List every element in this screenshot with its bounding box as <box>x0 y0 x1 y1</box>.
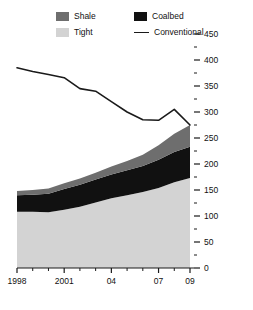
x-tick-label: 2001 <box>55 276 74 286</box>
y-tick-label: 400 <box>204 55 218 65</box>
y-tick-label: 150 <box>204 185 218 195</box>
line-conventional <box>17 68 190 125</box>
x-tick-label: 09 <box>185 276 195 286</box>
y-tick-label: 100 <box>204 211 218 221</box>
x-tick-label: 07 <box>154 276 164 286</box>
y-tick-label: 200 <box>204 159 218 169</box>
chart-container: Shale Tight Coalbed Conventional 0501001… <box>0 0 253 310</box>
chart-svg: 050100150200250300350400450 199820010407… <box>0 0 253 310</box>
y-tick-label: 0 <box>204 263 209 273</box>
y-tick-label: 250 <box>204 133 218 143</box>
y-tick-label: 50 <box>204 237 214 247</box>
y-tick-label: 300 <box>204 107 218 117</box>
y-tick-label: 350 <box>204 81 218 91</box>
x-tick-label: 1998 <box>8 276 27 286</box>
y-axis: 050100150200250300350400450 <box>194 29 218 273</box>
x-axis: 19982001040709 <box>8 268 195 286</box>
line-series-group <box>17 68 190 125</box>
area-series-group <box>17 125 190 268</box>
plot-area: 050100150200250300350400450 199820010407… <box>0 0 253 310</box>
y-tick-label: 450 <box>204 29 218 39</box>
x-tick-label: 04 <box>107 276 117 286</box>
